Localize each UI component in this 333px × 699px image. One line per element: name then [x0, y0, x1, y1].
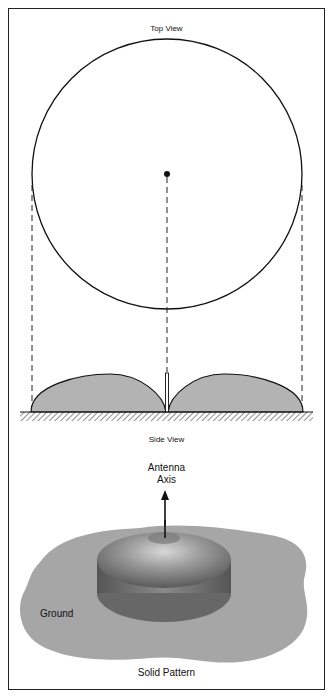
antenna-axis-label-line2: Axis	[0, 474, 333, 485]
side-view-lobes	[31, 373, 303, 412]
antenna-axis-label-line1: Antenna	[0, 462, 333, 473]
side-view-title: Side View	[0, 435, 333, 444]
torus-pattern	[97, 532, 231, 622]
solid-pattern-caption: Solid Pattern	[0, 667, 333, 678]
radiation-pattern-figure	[0, 0, 333, 699]
antenna-point-icon	[164, 171, 170, 177]
top-view-title: Top View	[0, 24, 333, 33]
ground-label: Ground	[40, 608, 73, 619]
ground-line	[20, 412, 313, 421]
antenna-element-icon	[166, 373, 169, 412]
